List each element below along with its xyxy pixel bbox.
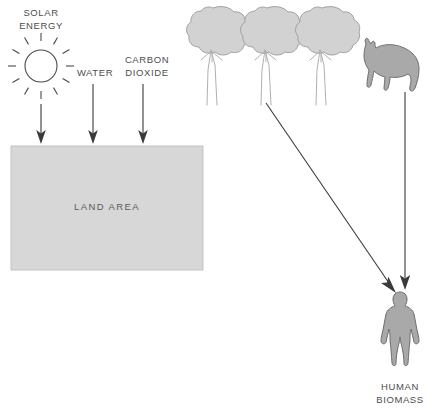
- cow-icon: [364, 38, 419, 91]
- solar-energy-label-line2: ENERGY: [19, 20, 63, 31]
- carbon-dioxide-arrow: [138, 84, 148, 144]
- sun-icon: [8, 33, 74, 99]
- carbon-dioxide-label-line1: CARBON: [125, 54, 169, 65]
- trees-to-human-arrow: [266, 103, 396, 293]
- land-area-label: LAND AREA: [74, 201, 140, 212]
- human-biomass-label-line2: BIOMASS: [376, 394, 424, 405]
- solar-energy-arrow: [36, 104, 46, 144]
- solar-energy-label-line1: SOLAR: [23, 7, 58, 18]
- livestock-to-human-arrow: [400, 92, 410, 290]
- diagram-svg: SOLAR ENERGY WATER CARBON DIOXIDE LAND A…: [0, 0, 441, 410]
- water-label: WATER: [77, 67, 113, 78]
- tree-icon: [187, 7, 251, 105]
- diagram-canvas: SOLAR ENERGY WATER CARBON DIOXIDE LAND A…: [0, 0, 441, 410]
- carbon-dioxide-label-line2: DIOXIDE: [125, 67, 168, 78]
- human-biomass-label-line1: HUMAN: [381, 381, 419, 392]
- tree-icon: [296, 7, 360, 105]
- tree-icon: [241, 7, 305, 105]
- water-arrow: [88, 84, 98, 144]
- human-figure-icon: [381, 292, 419, 366]
